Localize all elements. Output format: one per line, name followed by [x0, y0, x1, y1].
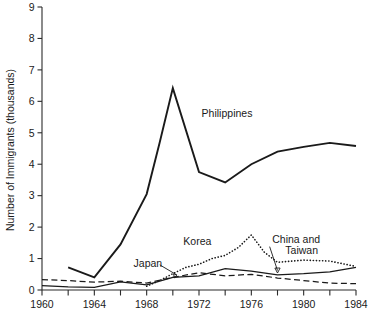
y-axis-ticks — [38, 7, 43, 290]
series-line-china-and-taiwan — [42, 267, 356, 287]
series-group — [42, 88, 356, 287]
y-axis-label: Number of Immigrants (thousands) — [4, 69, 16, 231]
x-tick-label-1968: 1968 — [135, 298, 159, 310]
x-tick-label-1976: 1976 — [240, 298, 264, 310]
y-tick-label-4: 4 — [29, 158, 35, 170]
china-taiwan-leader-arrow — [275, 268, 280, 273]
y-tick-label-8: 8 — [29, 32, 35, 44]
x-tick-label-1984: 1984 — [344, 298, 368, 310]
x-axis-ticks — [42, 290, 356, 296]
y-tick-label-1: 1 — [29, 252, 35, 264]
y-tick-label-9: 9 — [29, 1, 35, 13]
series-line-japan — [42, 273, 356, 284]
china-taiwan-leader-line — [270, 247, 278, 271]
x-tick-label-1980: 1980 — [292, 298, 316, 310]
y-tick-label-0: 0 — [29, 284, 35, 296]
japan-leader-line — [160, 265, 177, 275]
y-tick-label-3: 3 — [29, 189, 35, 201]
x-tick-label-1964: 1964 — [83, 298, 107, 310]
y-tick-label-7: 7 — [29, 64, 35, 76]
series-line-korea — [147, 235, 356, 286]
annotation-philippines: Philippines — [202, 107, 253, 119]
x-tick-label-1960: 1960 — [30, 298, 54, 310]
y-tick-label-6: 6 — [29, 95, 35, 107]
annotation-korea: Korea — [183, 235, 211, 247]
x-axis-tick-labels: 1960196419681972197619801984 — [30, 298, 368, 310]
x-tick-label-1972: 1972 — [187, 298, 211, 310]
y-tick-label-5: 5 — [29, 127, 35, 139]
y-tick-label-2: 2 — [29, 221, 35, 233]
annotation-china-and-taiwan-line2: Taiwan — [285, 244, 318, 256]
chart-svg: Number of Immigrants (thousands) 0123456… — [0, 0, 371, 318]
immigration-line-chart: Number of Immigrants (thousands) 0123456… — [0, 0, 371, 318]
y-axis-tick-labels: 0123456789 — [29, 1, 35, 296]
annotation-japan: Japan — [134, 257, 163, 269]
